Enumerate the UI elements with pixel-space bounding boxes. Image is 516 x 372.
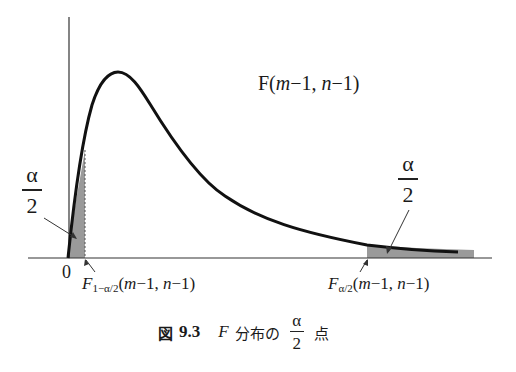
right-tail-arrow bbox=[388, 210, 409, 252]
caption-text: 分布の bbox=[235, 322, 280, 343]
left-critical-label: F1−α/2(m−1, n−1) bbox=[82, 274, 195, 294]
caption-alpha-half: α 2 bbox=[290, 312, 304, 352]
right-critical-label: Fα/2(m−1, n−1) bbox=[328, 274, 430, 294]
left-tail-alpha-half: α 2 bbox=[22, 164, 42, 217]
origin-label: 0 bbox=[62, 262, 71, 283]
distribution-label: F(m−1, n−1) bbox=[258, 72, 359, 95]
figure-root: F(m−1, n−1) α 2 α 2 0 F1−α/2(m−1, n−1) F… bbox=[0, 0, 516, 372]
caption-figure-word: 図 bbox=[158, 322, 173, 343]
caption-figure-number: 9.3 bbox=[179, 322, 200, 342]
left-critical-arrow bbox=[86, 260, 95, 272]
caption-suffix: 点 bbox=[314, 322, 329, 343]
caption-variable: F bbox=[218, 322, 228, 342]
figure-caption: 図 9.3 F 分布の α 2 点 bbox=[158, 312, 329, 352]
right-tail-alpha-half: α 2 bbox=[398, 153, 418, 206]
